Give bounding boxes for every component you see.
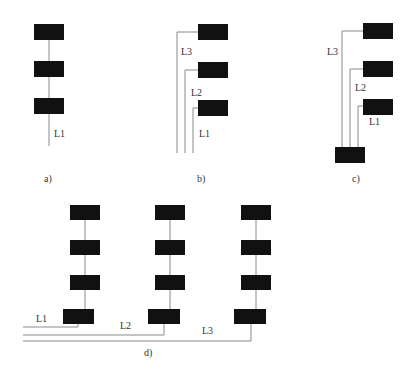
device-box — [155, 275, 185, 290]
line-label-l3: L3 — [181, 46, 192, 57]
device-box — [198, 100, 228, 116]
device-box — [155, 205, 185, 220]
base-box — [148, 309, 180, 324]
line-l2 — [185, 70, 198, 153]
line-label-l3: L3 — [327, 46, 338, 57]
panel-caption-b: b) — [197, 173, 205, 185]
line-l1 — [193, 108, 198, 153]
line-label-l1: L1 — [369, 116, 380, 127]
line-label-l1: L1 — [199, 128, 210, 139]
line-label-l3: L3 — [202, 325, 213, 336]
device-box — [363, 23, 393, 39]
line-l1 — [358, 106, 363, 147]
base-box — [335, 147, 365, 163]
device-box — [70, 275, 100, 290]
device-box — [34, 98, 64, 114]
base-box — [234, 309, 266, 324]
line-label-l2: L2 — [355, 82, 366, 93]
column-2 — [148, 205, 185, 324]
device-box — [155, 240, 185, 255]
line-label-l1: L1 — [36, 313, 47, 324]
line-label-l2: L2 — [120, 320, 131, 331]
wiring-topology-diagram: L1 a) L3 L2 L1 b) L3 L2 L1 c) — [0, 0, 414, 381]
line-label-l1: L1 — [54, 128, 65, 139]
base-box — [63, 309, 94, 324]
panel-caption-a: a) — [44, 173, 52, 185]
device-box — [363, 99, 393, 115]
device-box — [34, 24, 64, 40]
line-l2 — [350, 69, 363, 147]
device-box — [34, 61, 64, 77]
device-box — [241, 205, 271, 220]
panel-b: L3 L2 L1 b) — [177, 24, 228, 185]
device-box — [70, 240, 100, 255]
panel-caption-d: d) — [144, 347, 152, 359]
device-box — [241, 240, 271, 255]
line-l1 — [23, 324, 78, 327]
device-box — [198, 24, 228, 40]
line-label-l2: L2 — [191, 87, 202, 98]
device-box — [241, 275, 271, 290]
column-1 — [63, 205, 100, 324]
panel-caption-c: c) — [352, 173, 360, 185]
device-box — [198, 62, 228, 78]
column-3 — [234, 205, 271, 324]
panel-c: L3 L2 L1 c) — [327, 23, 393, 185]
device-box — [363, 61, 393, 77]
panel-a: L1 a) — [34, 24, 65, 185]
device-box — [70, 205, 100, 220]
panel-d: L1 L2 L3 d) — [23, 205, 271, 359]
line-l2 — [23, 324, 164, 335]
